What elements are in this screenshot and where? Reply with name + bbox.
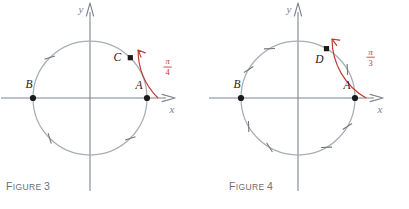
point-label-c: C — [113, 51, 121, 63]
figure-3-caption-word: IGURE — [13, 182, 42, 192]
x-axis-label: x — [377, 103, 383, 115]
point-marker-dot — [30, 95, 36, 101]
circle-tick-mark — [244, 67, 253, 73]
point-marker-square — [324, 46, 329, 51]
figure-3-caption-number: 3 — [44, 180, 50, 192]
point-label-a: A — [342, 79, 351, 91]
figure-3-caption: FIGURE3 — [6, 180, 50, 192]
circle-tick-mark — [125, 137, 136, 140]
figure-4-caption-lead: F — [229, 180, 236, 192]
point-label-d: D — [314, 53, 324, 65]
angle-label-denominator: 3 — [369, 58, 373, 68]
figure-4-caption-number: 4 — [267, 180, 273, 192]
figure-3-diagram: xyπ4ABC — [0, 0, 204, 209]
point-label-b: B — [233, 78, 240, 90]
figure-3-block: xyπ4ABC FIGURE3 — [0, 0, 204, 209]
figure-4-caption: FIGURE4 — [229, 180, 273, 192]
point-marker-dot — [144, 95, 150, 101]
point-marker-dot — [352, 95, 358, 101]
circle-tick-mark — [267, 143, 273, 152]
angle-arc-arrowhead — [138, 50, 145, 57]
circle-tick-mark — [343, 124, 352, 130]
point-marker-square — [128, 55, 133, 60]
angle-label-numerator: π — [165, 56, 170, 66]
point-label-a: A — [134, 79, 143, 91]
angle-label: π3 — [367, 47, 375, 68]
circle-tick-mark — [44, 56, 55, 59]
angle-label-denominator: 4 — [165, 67, 170, 77]
y-axis-label: y — [286, 3, 292, 15]
figure-3-caption-lead: F — [6, 180, 13, 192]
circle-tick-mark — [48, 133, 51, 144]
figure-4-diagram: xyπ3ABD — [204, 0, 409, 209]
y-axis-label: y — [78, 3, 84, 15]
angle-label-numerator: π — [369, 47, 374, 57]
angle-label: π4 — [163, 56, 171, 77]
figures-row: xyπ4ABC FIGURE3 xyπ3ABD FIGURE4 — [0, 0, 409, 209]
point-label-b: B — [25, 78, 32, 90]
figure-4-block: xyπ3ABD FIGURE4 — [204, 0, 409, 209]
x-axis-label: x — [169, 103, 175, 115]
angle-arc-arrowhead — [332, 39, 340, 45]
point-marker-dot — [238, 95, 244, 101]
figure-4-caption-word: IGURE — [236, 182, 265, 192]
